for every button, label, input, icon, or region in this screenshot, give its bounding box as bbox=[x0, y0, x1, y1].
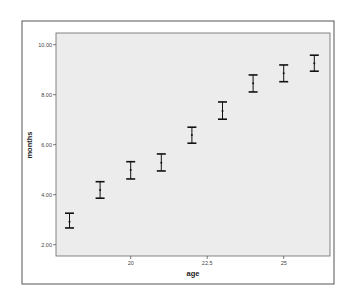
mean-marker bbox=[130, 169, 132, 171]
mean-marker bbox=[283, 72, 285, 74]
mean-marker bbox=[160, 162, 162, 164]
y-tick-label: 6.00 bbox=[41, 142, 52, 148]
mean-marker bbox=[313, 62, 315, 64]
x-axis-title: age bbox=[187, 269, 200, 278]
x-tick-label: 22.5 bbox=[202, 260, 213, 266]
x-tick-label: 20 bbox=[128, 260, 134, 266]
chart: 2.004.006.008.0010.00 2022.525 age month… bbox=[0, 0, 353, 301]
y-axis-title: months bbox=[25, 131, 34, 158]
mean-marker bbox=[99, 189, 101, 191]
mean-marker bbox=[252, 82, 254, 84]
y-tick-label: 8.00 bbox=[41, 92, 52, 98]
mean-marker bbox=[69, 221, 71, 223]
y-tick-label: 4.00 bbox=[41, 192, 52, 198]
mean-marker bbox=[222, 110, 224, 112]
x-tick-label: 25 bbox=[281, 260, 287, 266]
mean-marker bbox=[191, 134, 193, 136]
y-tick-label: 2.00 bbox=[41, 242, 52, 248]
y-tick-label: 10.00 bbox=[38, 42, 52, 48]
plot-area bbox=[56, 33, 330, 256]
